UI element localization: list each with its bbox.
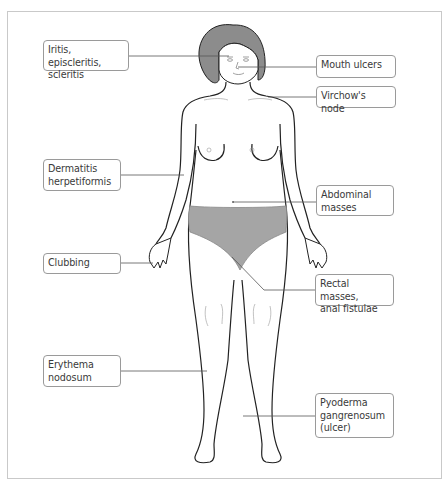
label-erythema-nodosum: Erythema nodosum xyxy=(43,355,121,387)
label-dermatitis-herpetiformis: Dermatitis herpetiformis xyxy=(43,159,121,191)
label-pyoderma-gangrenosum: Pyoderma gangrenosum (ulcer) xyxy=(315,393,394,438)
underwear xyxy=(189,206,287,270)
left-hand xyxy=(149,238,171,268)
right-hand xyxy=(305,238,327,268)
label-mouth-ulcers: Mouth ulcers xyxy=(316,55,396,78)
label-iritis: Iritis, episcleritis, scleritis xyxy=(43,40,129,71)
label-virchows-node: Virchow's node xyxy=(316,86,396,108)
label-clubbing: Clubbing xyxy=(43,253,121,274)
label-rectal-masses: Rectal masses, anal fistulae xyxy=(315,274,394,306)
label-abdominal-masses: Abdominal masses xyxy=(316,185,394,216)
